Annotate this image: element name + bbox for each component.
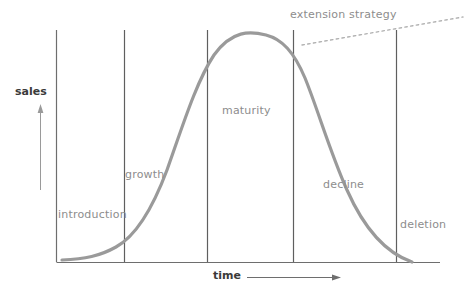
chart-canvas — [0, 0, 467, 298]
time-axis-arrow-head — [332, 275, 341, 281]
sales-axis-arrow-head — [38, 104, 44, 113]
phase-label-introduction: introduction — [58, 208, 127, 221]
phase-label-deletion: deletion — [400, 218, 446, 231]
annotation-extension-strategy: extension strategy — [290, 8, 397, 21]
phase-label-maturity: maturity — [222, 104, 271, 117]
sales-curve — [62, 33, 412, 262]
x-axis-title: time — [213, 269, 241, 282]
extension-strategy-line — [302, 17, 463, 45]
y-axis-title: sales — [15, 85, 47, 98]
phase-label-growth: growth — [125, 168, 164, 181]
product-life-cycle-chart: sales time introduction growth maturity … — [0, 0, 467, 298]
phase-label-decline: decline — [323, 178, 364, 191]
